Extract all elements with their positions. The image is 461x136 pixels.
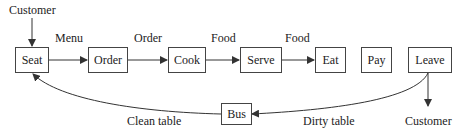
arrow-bus-to-seat: [33, 74, 221, 114]
label-food-1: Food: [211, 31, 236, 46]
arrow-leave-to-bus: [252, 73, 428, 114]
label-customer-in: Customer: [9, 3, 56, 18]
node-leave: Leave: [408, 47, 452, 73]
label-order: Order: [134, 31, 162, 46]
node-serve: Serve: [240, 47, 282, 73]
node-order: Order: [88, 47, 128, 73]
node-bus: Bus: [221, 103, 252, 125]
label-customer-out: Customer: [405, 114, 452, 129]
node-cook: Cook: [168, 47, 206, 73]
label-menu: Menu: [55, 31, 83, 46]
node-pay: Pay: [361, 47, 392, 73]
node-seat: Seat: [15, 47, 49, 73]
node-eat: Eat: [315, 47, 346, 73]
label-clean-table: Clean table: [127, 114, 181, 129]
label-dirty-table: Dirty table: [303, 114, 355, 129]
label-food-2: Food: [285, 31, 310, 46]
